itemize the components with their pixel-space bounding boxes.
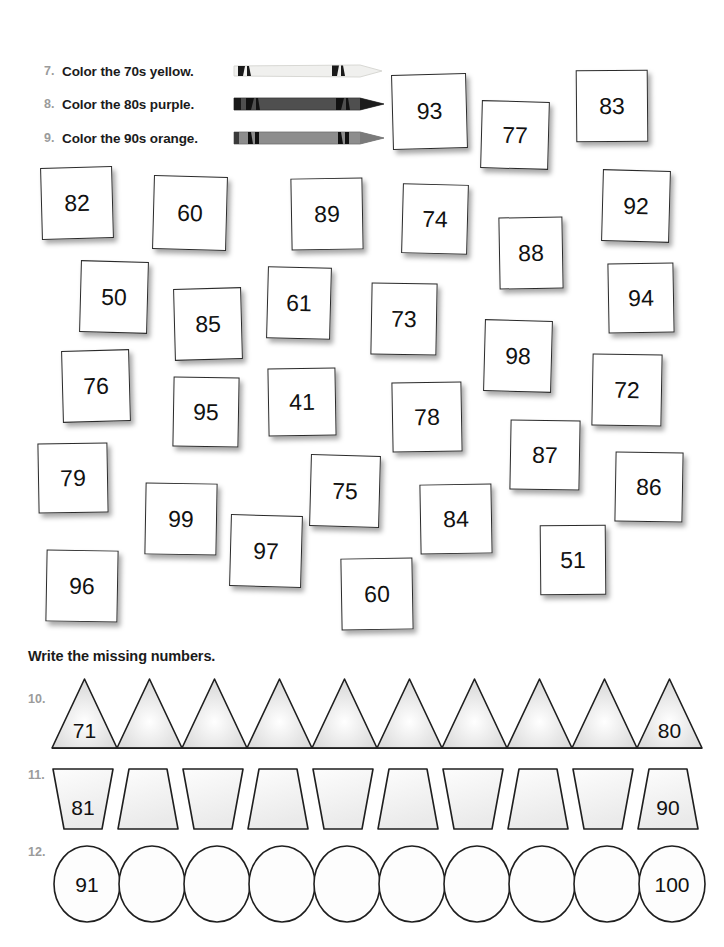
number-card-value: 94 [628, 286, 654, 309]
number-card-value: 87 [532, 443, 558, 466]
shape-label: 81 [71, 796, 94, 819]
number-card[interactable]: 86 [614, 451, 683, 522]
number-card[interactable]: 95 [172, 376, 239, 447]
number-card-value: 86 [636, 475, 662, 498]
number-card[interactable]: 85 [173, 287, 243, 361]
number-card[interactable]: 50 [79, 260, 149, 334]
instruction-row-9: 9. Color the 90s orange. [44, 127, 198, 149]
number-card-value: 60 [364, 582, 390, 605]
number-card[interactable]: 82 [40, 166, 114, 240]
triangle-sequence-row[interactable]: 7180 [50, 676, 708, 752]
number-card[interactable]: 97 [229, 514, 303, 588]
number-card-value: 61 [286, 291, 312, 315]
number-card-value: 41 [289, 390, 315, 413]
number-card-value: 75 [332, 479, 358, 503]
ellipse-sequence-row[interactable]: 91100 [50, 843, 710, 927]
trapezoid-cell[interactable] [443, 769, 503, 829]
number-card-value: 72 [614, 378, 640, 401]
row-number-12: 12. [28, 845, 45, 859]
ellipse-cell[interactable] [249, 846, 315, 922]
instruction-row-8: 8. Color the 80s purple. [44, 93, 194, 115]
ellipse-cell[interactable] [314, 846, 380, 922]
number-card[interactable]: 60 [340, 557, 413, 630]
ellipse-cell[interactable] [444, 846, 510, 922]
number-card[interactable]: 74 [401, 183, 469, 255]
number-card[interactable]: 94 [607, 262, 674, 333]
number-card[interactable]: 79 [37, 442, 108, 513]
number-card-value: 74 [422, 207, 448, 231]
ellipse-cell[interactable] [119, 846, 185, 922]
number-card[interactable]: 83 [576, 70, 649, 143]
crayon-yellow-icon [232, 63, 384, 78]
number-card[interactable]: 72 [591, 353, 662, 426]
ellipse-cell[interactable] [184, 846, 250, 922]
shape-label: 91 [75, 873, 98, 896]
instruction-number: 9. [44, 131, 62, 145]
ellipse-cell[interactable] [509, 846, 575, 922]
triangle-cell[interactable] [182, 679, 247, 748]
trapezoid-cell[interactable] [573, 769, 633, 829]
instruction-text: Color the 90s orange. [62, 131, 198, 146]
number-card-value: 73 [391, 307, 417, 330]
number-card[interactable]: 87 [509, 419, 580, 490]
row-number-10: 10. [28, 692, 45, 706]
number-card[interactable]: 84 [419, 483, 492, 554]
number-card-value: 95 [193, 400, 219, 423]
triangle-cell[interactable] [247, 679, 312, 748]
ellipse-cell[interactable] [379, 846, 445, 922]
number-card[interactable]: 92 [601, 169, 671, 243]
trapezoid-cell[interactable] [508, 769, 568, 829]
number-card-value: 76 [83, 374, 109, 398]
number-card[interactable]: 96 [45, 549, 118, 622]
triangle-cell[interactable] [442, 679, 507, 748]
triangle-cell[interactable] [377, 679, 442, 748]
trapezoid-cell[interactable] [378, 769, 438, 829]
number-card[interactable]: 88 [498, 216, 563, 289]
number-card-value: 96 [69, 574, 95, 597]
triangle-cell[interactable] [312, 679, 377, 748]
crayon-orange-icon [232, 130, 384, 145]
number-card[interactable]: 89 [290, 177, 363, 250]
instruction-text: Color the 70s yellow. [62, 64, 194, 79]
number-card[interactable]: 77 [480, 100, 550, 170]
trapezoid-sequence-row[interactable]: 8190 [50, 766, 706, 834]
trapezoid-cell[interactable] [313, 769, 373, 829]
number-card[interactable]: 75 [309, 454, 381, 528]
number-card-value: 78 [414, 405, 440, 428]
trapezoid-cell[interactable] [118, 769, 178, 829]
number-card-value: 82 [64, 191, 90, 215]
number-card[interactable]: 93 [391, 73, 468, 150]
number-card[interactable]: 51 [540, 525, 607, 596]
number-card[interactable]: 76 [61, 349, 131, 423]
number-card[interactable]: 61 [266, 266, 332, 340]
number-card-value: 98 [505, 344, 531, 368]
shape-label: 71 [73, 719, 96, 742]
worksheet-page: 7. Color the 70s yellow. 8. Color the 80… [0, 0, 724, 947]
number-card-value: 51 [560, 548, 586, 571]
instruction-row-7: 7. Color the 70s yellow. [44, 60, 194, 82]
triangle-cell[interactable] [117, 679, 182, 748]
number-card[interactable]: 78 [391, 381, 462, 452]
number-card[interactable]: 99 [144, 482, 217, 555]
triangle-cell[interactable] [572, 679, 637, 748]
crayon-purple-icon [232, 96, 384, 111]
number-card-value: 77 [502, 123, 528, 147]
instruction-number: 7. [44, 64, 62, 78]
shape-label: 80 [658, 719, 681, 742]
number-card-value: 92 [623, 194, 649, 218]
instruction-number: 8. [44, 97, 62, 111]
number-card[interactable]: 41 [267, 367, 336, 436]
number-card-value: 85 [195, 312, 221, 336]
number-card-value: 89 [314, 202, 340, 225]
number-card[interactable]: 98 [483, 319, 553, 393]
number-card[interactable]: 73 [370, 282, 437, 355]
ellipse-cell[interactable] [574, 846, 640, 922]
trapezoid-cell[interactable] [248, 769, 308, 829]
number-card-value: 83 [599, 94, 625, 117]
trapezoid-cell[interactable] [183, 769, 243, 829]
number-card[interactable]: 60 [152, 175, 228, 251]
number-card-value: 79 [60, 466, 86, 489]
number-card-value: 84 [443, 507, 469, 530]
number-card-value: 99 [168, 507, 194, 530]
triangle-cell[interactable] [507, 679, 572, 748]
